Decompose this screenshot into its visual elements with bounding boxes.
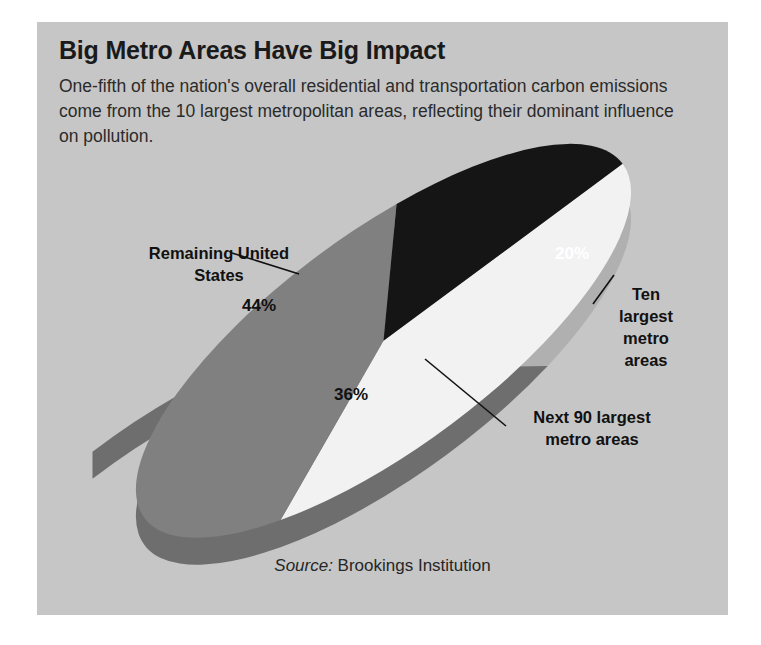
source-prefix: Source:: [274, 556, 337, 575]
callout-next-ninety-line1: Next 90 largest: [533, 408, 651, 426]
pie-chart-3d: 20% 36% 44% Remaining United States Ten …: [37, 22, 728, 615]
slice-value-next-ninety: 36%: [334, 385, 368, 404]
slice-value-ten-largest: 20%: [555, 244, 589, 263]
callout-ten-largest-line1: Ten: [632, 285, 660, 303]
callout-ten-largest-line3: metro: [623, 329, 669, 347]
callout-remaining-line1: Remaining United: [149, 244, 289, 262]
callout-ten-largest-line4: areas: [624, 351, 667, 369]
callout-remaining-united-states[interactable]: Remaining United States: [149, 244, 299, 284]
pie-geometry-group: [67, 77, 699, 615]
chart-page: Big Metro Areas Have Big Impact One-fift…: [0, 0, 761, 645]
callout-next-ninety-line2: metro areas: [545, 430, 639, 448]
slice-value-remaining: 44%: [242, 296, 276, 315]
callout-ten-largest-line2: largest: [619, 307, 674, 325]
source-attribution: Source: Brookings Institution: [37, 556, 728, 576]
chart-panel: Big Metro Areas Have Big Impact One-fift…: [37, 22, 728, 615]
source-name: Brookings Institution: [338, 556, 491, 575]
callout-remaining-line2: States: [194, 266, 244, 284]
